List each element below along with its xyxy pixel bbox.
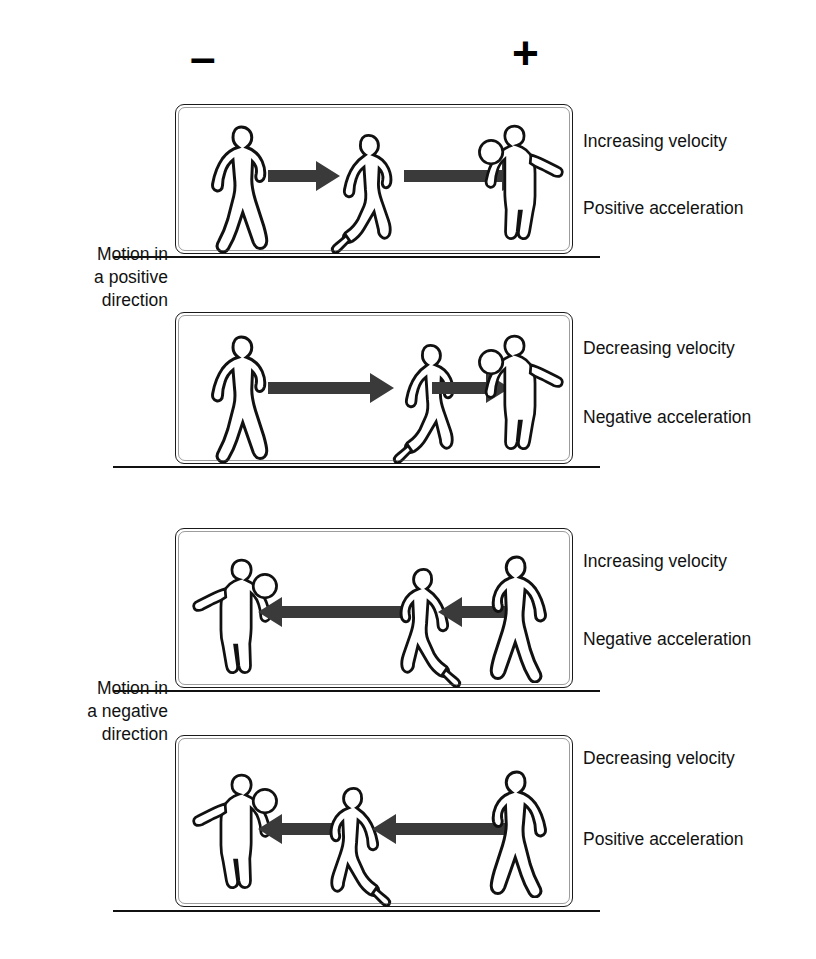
ground-line-1 bbox=[113, 256, 600, 258]
motion-negative-line-3: direction bbox=[18, 723, 168, 746]
panel-3-velocity-label: Increasing velocity bbox=[583, 551, 727, 572]
throwing-figure bbox=[476, 325, 568, 461]
panel-3 bbox=[175, 528, 573, 688]
velocity-arrow-1 bbox=[268, 373, 394, 403]
velocity-arrow-1 bbox=[258, 597, 408, 627]
panel-2-acceleration-label: Negative acceleration bbox=[583, 407, 751, 428]
running-figure bbox=[386, 341, 466, 465]
running-figure bbox=[318, 784, 398, 908]
motion-acceleration-figure: – + bbox=[0, 0, 816, 959]
panel-2-velocity-label: Decreasing velocity bbox=[583, 338, 735, 359]
walking-figure bbox=[472, 551, 560, 683]
ground-line-3 bbox=[113, 690, 600, 692]
walking-figure bbox=[472, 766, 560, 898]
motion-negative-line-2: a negative bbox=[18, 700, 168, 723]
motion-positive-line-3: direction bbox=[18, 289, 168, 312]
panel-4-velocity-label: Decreasing velocity bbox=[583, 748, 735, 769]
panel-4-acceleration-label: Positive acceleration bbox=[583, 829, 744, 850]
motion-negative-line-1: Motion in bbox=[18, 677, 168, 700]
motion-negative-caption: Motion in a negative direction bbox=[18, 677, 168, 746]
panel-3-stage bbox=[176, 529, 572, 687]
panel-1-stage bbox=[176, 105, 572, 253]
panel-2 bbox=[175, 312, 573, 464]
running-figure bbox=[388, 565, 468, 689]
motion-positive-caption: Motion in a positive direction bbox=[18, 243, 168, 312]
panel-4-stage bbox=[176, 736, 572, 906]
positive-direction-sign: + bbox=[512, 30, 539, 76]
panel-3-acceleration-label: Negative acceleration bbox=[583, 629, 751, 650]
panel-2-stage bbox=[176, 313, 572, 463]
ground-line-2 bbox=[113, 466, 600, 468]
panel-1-acceleration-label: Positive acceleration bbox=[583, 198, 744, 219]
panel-4 bbox=[175, 735, 573, 907]
panel-1 bbox=[175, 104, 573, 254]
ground-line-4 bbox=[113, 910, 600, 912]
motion-positive-line-2: a positive bbox=[18, 266, 168, 289]
running-figure bbox=[324, 131, 404, 255]
panel-1-velocity-label: Increasing velocity bbox=[583, 131, 727, 152]
throwing-figure bbox=[476, 115, 568, 251]
motion-positive-line-1: Motion in bbox=[18, 243, 168, 266]
negative-direction-sign: – bbox=[190, 34, 215, 80]
